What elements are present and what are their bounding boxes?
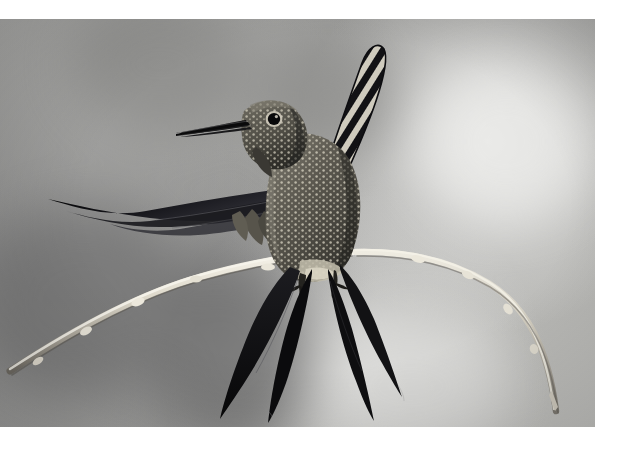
photograph: [0, 19, 595, 427]
image-canvas: [0, 0, 624, 461]
eye: [266, 111, 283, 127]
hummingbird: [0, 19, 595, 427]
beak: [176, 120, 252, 137]
tail: [220, 265, 404, 423]
